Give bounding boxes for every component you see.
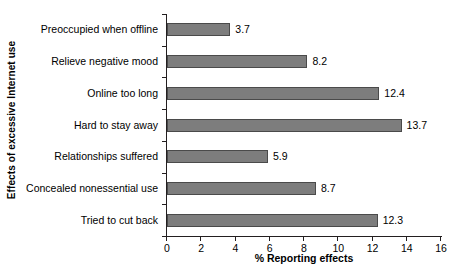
y-axis-title: Effects of excessive Internet use bbox=[0, 0, 22, 240]
category-label: Tried to cut back bbox=[81, 213, 158, 227]
bar bbox=[167, 150, 268, 163]
category-label: Hard to stay away bbox=[74, 118, 158, 132]
bar-value-label: 8.7 bbox=[321, 181, 336, 195]
x-axis-tick bbox=[303, 236, 304, 241]
bar-value-label: 8.2 bbox=[312, 54, 327, 68]
y-axis-tick bbox=[162, 77, 167, 78]
y-axis-tick bbox=[162, 173, 167, 174]
category-label-group: Preoccupied when offlineRelieve negative… bbox=[22, 14, 163, 236]
x-axis-tick bbox=[406, 236, 407, 241]
bar bbox=[167, 23, 230, 36]
bar-value-label: 12.3 bbox=[383, 213, 403, 227]
y-axis-tick bbox=[162, 46, 167, 47]
x-axis-tick bbox=[269, 236, 270, 241]
bar bbox=[167, 87, 379, 100]
y-axis-tick bbox=[162, 109, 167, 110]
bar bbox=[167, 55, 307, 68]
x-axis-tick bbox=[440, 236, 441, 241]
x-axis-title: % Reporting effects bbox=[167, 252, 441, 264]
category-label: Relieve negative mood bbox=[51, 54, 158, 68]
category-label: Preoccupied when offline bbox=[41, 22, 158, 36]
bar bbox=[167, 182, 316, 195]
x-axis-tick bbox=[337, 236, 338, 241]
bar-value-label: 5.9 bbox=[273, 149, 288, 163]
x-axis-tick bbox=[372, 236, 373, 241]
bar bbox=[167, 119, 402, 132]
category-label: Concealed nonessential use bbox=[26, 181, 158, 195]
x-axis-tick bbox=[235, 236, 236, 241]
bar-value-label: 3.7 bbox=[235, 22, 250, 36]
bar-chart: Effects of excessive Internet use Preocc… bbox=[0, 0, 463, 280]
y-axis-tick bbox=[162, 141, 167, 142]
y-axis-tick bbox=[162, 236, 167, 237]
y-axis-tick bbox=[162, 204, 167, 205]
category-label: Online too long bbox=[87, 86, 158, 100]
bar-value-label: 12.4 bbox=[384, 86, 404, 100]
bar-value-label: 13.7 bbox=[407, 118, 427, 132]
x-axis-line bbox=[166, 236, 442, 237]
y-axis-tick bbox=[162, 14, 167, 15]
bar bbox=[167, 214, 378, 227]
category-label: Relationships suffered bbox=[54, 149, 158, 163]
plot-area: 02468101214163.78.212.413.75.98.712.3 bbox=[167, 14, 441, 236]
x-axis-tick bbox=[200, 236, 201, 241]
